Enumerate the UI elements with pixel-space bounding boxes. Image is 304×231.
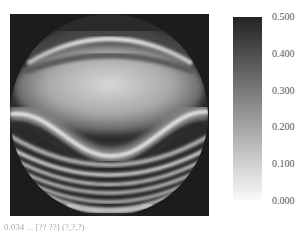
colorbar-tick: 0.200 (272, 122, 295, 132)
colorbar (233, 17, 262, 200)
colorbar-tick: 0.400 (272, 49, 295, 59)
colorbar-tick: 0.100 (272, 159, 295, 169)
status-footer: 0.034 ... [?? ??] (?,?,?) (4, 222, 84, 231)
colorbar-gradient (233, 17, 262, 200)
fringe-image (10, 14, 209, 216)
colorbar-tick: 0.300 (272, 86, 295, 96)
fringe-heatmap (10, 14, 209, 216)
colorbar-tick: 0.500 (272, 12, 295, 22)
colorbar-tick: 0.000 (272, 196, 295, 206)
